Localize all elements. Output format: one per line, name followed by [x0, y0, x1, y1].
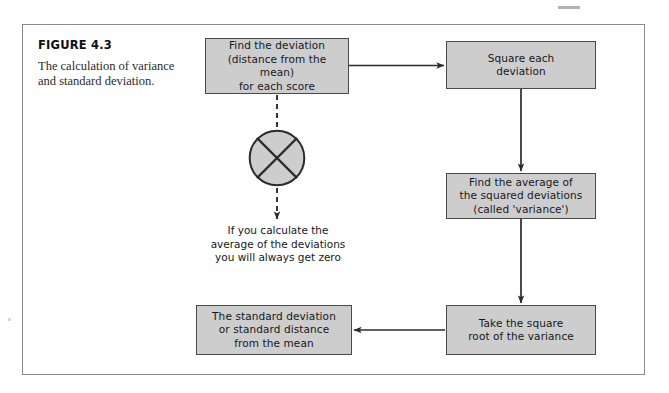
flow-box-label: Find the deviation (distance from the me… [206, 39, 348, 93]
flow-box-take-square-root: Take the square root of the variance [446, 305, 596, 355]
flow-box-standard-deviation: The standard deviation or standard dista… [196, 305, 352, 355]
flow-box-find-average-variance: Find the average of the squared deviatio… [446, 173, 596, 219]
figure-caption: FIGURE 4.3 The calculation of variance a… [38, 38, 188, 89]
crossed-circle-icon [248, 129, 306, 187]
figure-page: FIGURE 4.3 The calculation of variance a… [0, 0, 669, 393]
figure-caption-text: The calculation of variance and standard… [38, 59, 188, 89]
scan-artifact-speck [8, 318, 11, 321]
flow-box-label: Find the average of the squared deviatio… [456, 176, 587, 217]
scan-artifact-dash [558, 6, 580, 9]
flow-box-label: Square each deviation [484, 52, 559, 79]
flow-box-find-deviation: Find the deviation (distance from the me… [205, 38, 349, 94]
flow-box-label: Take the square root of the variance [464, 317, 578, 344]
figure-number-label: FIGURE 4.3 [38, 38, 188, 52]
flow-box-square-each-deviation: Square each deviation [446, 41, 596, 89]
flow-box-label: The standard deviation or standard dista… [208, 310, 340, 351]
note-average-deviations-zero: If you calculate the average of the devi… [187, 224, 369, 265]
